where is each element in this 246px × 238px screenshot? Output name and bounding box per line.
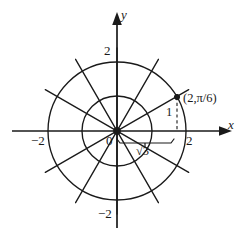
y-axis-label: y — [121, 8, 127, 21]
point-marker-2-pi-over-6 — [174, 94, 179, 99]
y-tick-label-positive-2: 2 — [104, 44, 111, 57]
origin-label: 0 — [106, 134, 113, 147]
vertical-leg-label: 1 — [166, 106, 172, 119]
polar-grid-svg — [0, 0, 246, 238]
polar-plot-figure: x y 2 −2 2 −2 0 (2,π/6) 1 √3 — [0, 0, 246, 238]
horizontal-leg-label: √3 — [136, 145, 149, 158]
x-axis-label: x — [228, 118, 234, 131]
point-label: (2,π/6) — [183, 92, 217, 105]
x-tick-label-negative-2: −2 — [31, 134, 45, 147]
plotted-point — [174, 94, 179, 99]
origin-dot — [114, 128, 121, 135]
x-tick-label-positive-2: 2 — [186, 134, 193, 147]
origin-marker — [114, 128, 121, 135]
horizontal-leg-brace — [117, 139, 174, 143]
y-tick-label-negative-2: −2 — [98, 207, 112, 220]
coordinate-axes — [12, 20, 224, 228]
